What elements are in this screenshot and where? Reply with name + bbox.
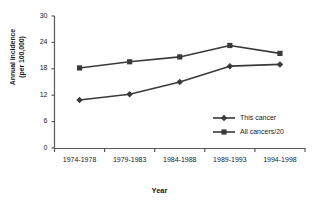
legend-markers bbox=[213, 115, 235, 135]
y-axis-title-line2: (per 100,000) bbox=[17, 7, 26, 107]
x-tick-label: 1989-1993 bbox=[204, 156, 256, 163]
data-point-marker-diamond bbox=[76, 97, 83, 104]
y-axis-title: Annual incidence (per 100,000) bbox=[8, 7, 26, 107]
legend-label-1: All cancers/20 bbox=[240, 128, 284, 135]
x-tick-label: 1979-1983 bbox=[104, 156, 156, 163]
x-tick-label: 1984-1988 bbox=[154, 156, 206, 163]
chart-series-group bbox=[76, 43, 283, 103]
y-tick-label: 6 bbox=[30, 117, 48, 124]
data-point-marker-diamond bbox=[227, 63, 234, 70]
x-tick-label: 1974-1978 bbox=[54, 156, 106, 163]
data-point-marker-square bbox=[127, 59, 132, 64]
x-tick-label: 1994-1998 bbox=[254, 156, 306, 163]
data-point-marker-diamond bbox=[277, 61, 284, 68]
legend-label-0: This cancer bbox=[240, 114, 276, 121]
data-point-marker-square bbox=[277, 51, 282, 56]
y-tick-label: 30 bbox=[30, 12, 48, 19]
y-axis-title-line1: Annual incidence bbox=[8, 7, 17, 107]
y-tick-label: 12 bbox=[30, 91, 48, 98]
y-tick-label: 0 bbox=[30, 144, 48, 151]
data-point-marker-diamond bbox=[177, 79, 184, 86]
x-axis-title: Year bbox=[0, 186, 319, 195]
y-tick-label: 24 bbox=[30, 38, 48, 45]
data-point-marker-square bbox=[221, 129, 226, 134]
chart-container: Annual incidence (per 100,000) Year 0612… bbox=[0, 0, 319, 206]
data-point-marker-square bbox=[177, 54, 182, 59]
data-point-marker-diamond bbox=[221, 115, 228, 122]
data-point-marker-diamond bbox=[126, 91, 132, 98]
data-point-marker-square bbox=[77, 65, 82, 70]
data-point-marker-square bbox=[227, 43, 232, 48]
y-tick-label: 18 bbox=[30, 64, 48, 71]
chart-plot-area bbox=[0, 0, 319, 206]
